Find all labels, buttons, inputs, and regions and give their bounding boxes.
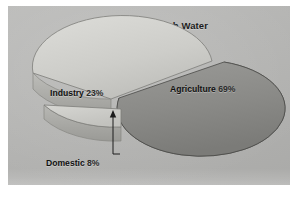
pie-label-agriculture: Agriculture 69% — [170, 84, 235, 94]
pie-label-industry-name: Industry — [50, 88, 84, 98]
pie-label-domestic: Domestic 8% — [46, 158, 100, 168]
pie-label-industry-value: 23% — [86, 88, 103, 98]
pie-slice-domestic[interactable] — [44, 105, 121, 141]
pie-label-domestic-name: Domestic — [46, 158, 85, 168]
pie-label-domestic-value: 8% — [87, 158, 99, 168]
pie-label-agriculture-value: 69% — [218, 84, 235, 94]
pie-label-agriculture-name: Agriculture — [170, 84, 216, 94]
pie-chart: Agriculture 69% Industry 23% Domestic 8% — [8, 6, 290, 185]
pie-label-industry: Industry 23% — [50, 88, 104, 98]
chart-panel: World Use of Fresh Water — [8, 6, 290, 185]
